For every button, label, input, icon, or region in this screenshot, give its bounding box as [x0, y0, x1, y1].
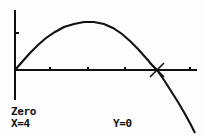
cursor-x-value: X=4	[11, 118, 30, 129]
calculator-graph-screen: Zero X=4 Y=0	[0, 0, 203, 136]
function-curve	[15, 22, 195, 133]
cursor-y-value: Y=0	[113, 118, 132, 129]
zero-operation-label: Zero	[11, 106, 36, 117]
